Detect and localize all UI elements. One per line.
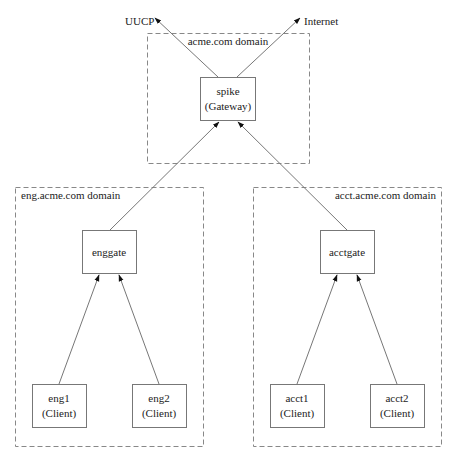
domain-diagram: acme.com domain eng.acme.com domain acct… xyxy=(0,0,454,462)
internet-label: Internet xyxy=(304,15,338,27)
arrow-acct2-to-acctgate xyxy=(357,275,397,384)
svg-text:acctgate: acctgate xyxy=(329,246,365,258)
node-spike: spike (Gateway) xyxy=(201,78,256,121)
svg-text:acct1: acct1 xyxy=(285,392,308,404)
svg-text:enggate: enggate xyxy=(92,246,126,258)
node-enggate: enggate xyxy=(83,231,137,274)
svg-text:eng2: eng2 xyxy=(148,392,169,404)
node-eng1: eng1 (Client) xyxy=(33,385,87,428)
node-acct1: acct1 (Client) xyxy=(271,385,325,428)
arrow-spike-to-uucp xyxy=(155,18,218,77)
svg-text:spike: spike xyxy=(216,85,239,97)
svg-text:(Gateway): (Gateway) xyxy=(205,100,252,113)
arrow-acctgate-to-spike xyxy=(238,122,347,230)
arrow-eng2-to-enggate xyxy=(119,275,159,384)
node-acctgate: acctgate xyxy=(321,231,375,274)
arrow-spike-to-internet xyxy=(237,18,300,77)
arrow-enggate-to-spike xyxy=(110,122,219,230)
uucp-label: UUCP xyxy=(125,15,154,27)
acme-domain-label: acme.com domain xyxy=(188,35,269,47)
svg-text:(Client): (Client) xyxy=(42,407,77,420)
eng-domain-label: eng.acme.com domain xyxy=(21,189,121,201)
node-eng2: eng2 (Client) xyxy=(133,385,187,428)
svg-text:eng1: eng1 xyxy=(48,392,69,404)
arrow-acct1-to-acctgate xyxy=(297,275,337,384)
svg-text:(Client): (Client) xyxy=(280,407,315,420)
svg-text:(Client): (Client) xyxy=(380,407,415,420)
arrow-eng1-to-enggate xyxy=(59,275,99,384)
node-acct2: acct2 (Client) xyxy=(371,385,425,428)
svg-text:(Client): (Client) xyxy=(142,407,177,420)
svg-text:acct2: acct2 xyxy=(385,392,408,404)
acct-domain-label: acct.acme.com domain xyxy=(335,189,437,201)
